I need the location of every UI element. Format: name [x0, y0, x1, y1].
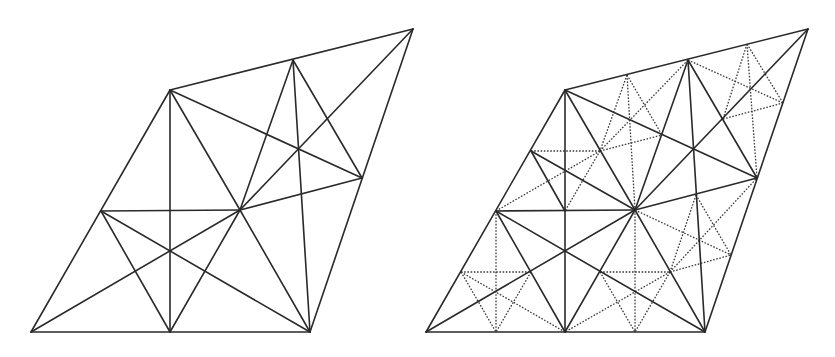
- refinement-edge: [600, 60, 688, 151]
- mesh-edge: [240, 60, 293, 210]
- refinement-edge: [723, 103, 783, 119]
- refinement-edge: [670, 195, 696, 272]
- mesh-edge: [635, 29, 808, 210]
- mesh-edge: [293, 60, 362, 178]
- refinement-edge: [670, 178, 757, 272]
- mesh-edge: [565, 29, 808, 90]
- mesh-refinement-figure: [0, 0, 835, 357]
- mesh-edge: [170, 210, 240, 332]
- mesh-edge: [240, 210, 310, 332]
- mesh-edge: [240, 29, 413, 210]
- coarse-mesh-panel: [31, 29, 413, 332]
- mesh-edge: [170, 29, 413, 90]
- mesh-edge: [170, 90, 240, 210]
- mesh-edge: [101, 211, 170, 332]
- mesh-edge: [635, 60, 688, 210]
- mesh-edge: [688, 60, 757, 178]
- mesh-edge: [565, 90, 635, 210]
- refinement-edge: [688, 60, 783, 103]
- refined-mesh-panel: [426, 29, 808, 332]
- mesh-edge: [531, 151, 635, 210]
- mesh-edge: [310, 29, 413, 332]
- mesh-edge: [170, 90, 362, 178]
